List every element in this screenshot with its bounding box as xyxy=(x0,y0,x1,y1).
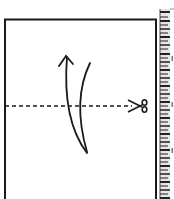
fold-arrow-icon xyxy=(59,56,90,153)
diagram-canvas xyxy=(0,0,174,199)
ruler xyxy=(160,9,174,199)
scissors-icon xyxy=(128,100,147,113)
